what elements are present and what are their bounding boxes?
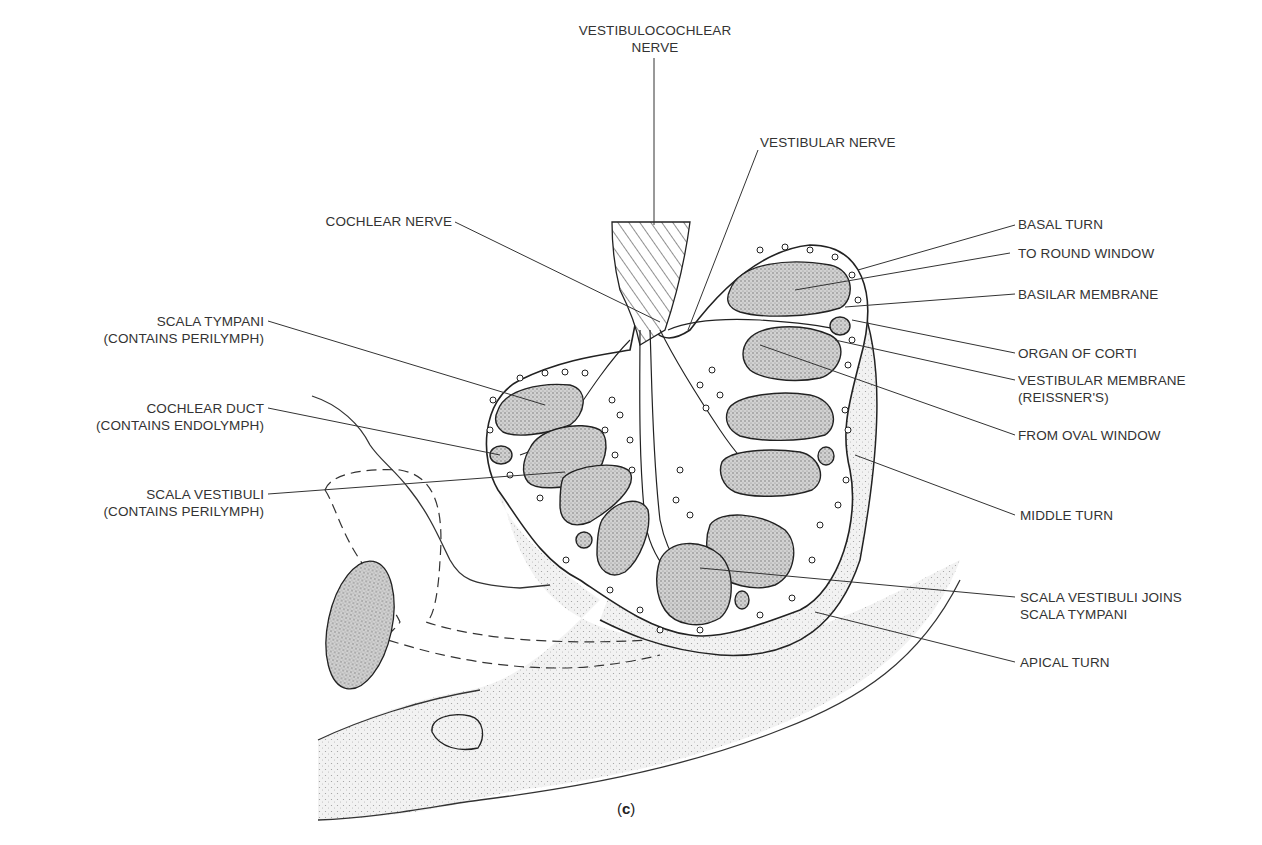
label-line: ORGAN OF CORTI xyxy=(1018,345,1137,362)
label-line: SCALA TYMPANI xyxy=(70,313,264,330)
label-vestibular-nerve: VESTIBULAR NERVE xyxy=(760,134,896,151)
label-line: NERVE xyxy=(575,39,735,56)
caption-paren-close: ) xyxy=(630,800,635,817)
label-basal-turn: BASAL TURN xyxy=(1018,216,1103,233)
label-line: SCALA VESTIBULI xyxy=(70,486,264,503)
label-scala-vestibuli: SCALA VESTIBULI (CONTAINS PERILYMPH) xyxy=(70,486,264,520)
label-vestibular-membrane: VESTIBULAR MEMBRANE (REISSNER'S) xyxy=(1018,372,1186,406)
label-line: TO ROUND WINDOW xyxy=(1018,245,1154,262)
label-apical-turn: APICAL TURN xyxy=(1020,654,1110,671)
figure-caption: (c) xyxy=(617,800,635,817)
label-line: BASILAR MEMBRANE xyxy=(1018,286,1158,303)
label-cochlear-duct: COCHLEAR DUCT (CONTAINS ENDOLYMPH) xyxy=(60,400,264,434)
label-line: VESTIBULOCOCHLEAR xyxy=(575,22,735,39)
label-line: VESTIBULAR NERVE xyxy=(760,134,896,151)
label-line: (CONTAINS ENDOLYMPH) xyxy=(60,417,264,434)
label-line: SCALA TYMPANI xyxy=(1020,606,1182,623)
label-basilar-membrane: BASILAR MEMBRANE xyxy=(1018,286,1158,303)
label-line: FROM OVAL WINDOW xyxy=(1018,427,1161,444)
label-line: MIDDLE TURN xyxy=(1020,507,1113,524)
label-vestibulocochlear-nerve: VESTIBULOCOCHLEAR NERVE xyxy=(575,22,735,56)
label-scala-vestibuli-joins: SCALA VESTIBULI JOINS SCALA TYMPANI xyxy=(1020,589,1182,623)
label-line: (CONTAINS PERILYMPH) xyxy=(70,330,264,347)
label-line: COCHLEAR NERVE xyxy=(280,213,452,230)
label-cochlear-nerve: COCHLEAR NERVE xyxy=(280,213,452,230)
stippled-bone-body-left xyxy=(315,555,405,695)
label-organ-of-corti: ORGAN OF CORTI xyxy=(1018,345,1137,362)
label-line: APICAL TURN xyxy=(1020,654,1110,671)
label-line: VESTIBULAR MEMBRANE xyxy=(1018,372,1186,389)
label-line: BASAL TURN xyxy=(1018,216,1103,233)
label-to-round-window: TO ROUND WINDOW xyxy=(1018,245,1154,262)
label-line: (REISSNER'S) xyxy=(1018,389,1186,406)
label-scala-tympani: SCALA TYMPANI (CONTAINS PERILYMPH) xyxy=(70,313,264,347)
label-line: COCHLEAR DUCT xyxy=(60,400,264,417)
label-line: SCALA VESTIBULI JOINS xyxy=(1020,589,1182,606)
label-line: (CONTAINS PERILYMPH) xyxy=(70,503,264,520)
label-from-oval-window: FROM OVAL WINDOW xyxy=(1018,427,1161,444)
label-middle-turn: MIDDLE TURN xyxy=(1020,507,1113,524)
